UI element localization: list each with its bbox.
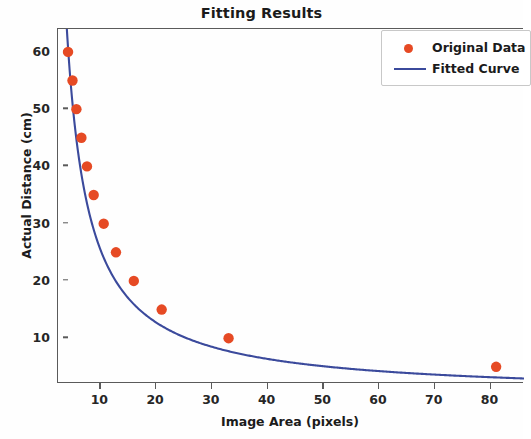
y-tick-label: 10 [16,330,50,345]
chart-legend: Original Data Fitted Curve [381,30,531,86]
data-point [99,218,109,228]
x-tick-mark [378,383,379,389]
data-point [129,276,139,286]
data-point [76,133,86,143]
legend-label: Fitted Curve [428,61,519,76]
x-tick-mark [99,383,100,389]
data-point [223,333,233,343]
line-marker-icon [392,62,428,76]
data-point [156,304,166,314]
data-point [491,362,501,372]
x-tick-label: 50 [302,392,342,407]
x-tick-label: 40 [247,392,287,407]
y-axis-title: Actual Distance (cm) [19,56,34,316]
chart-title: Fitting Results [0,5,523,21]
x-axis-title: Image Area (pixels) [57,414,523,429]
x-tick-label: 30 [191,392,231,407]
data-point [67,75,77,85]
x-tick-mark [434,383,435,389]
x-tick-mark [490,383,491,389]
data-point [63,47,73,57]
x-tick-mark [322,383,323,389]
data-point [88,190,98,200]
x-tick-label: 80 [470,392,510,407]
x-tick-label: 60 [358,392,398,407]
data-point [71,104,81,114]
x-tick-mark [267,383,268,389]
data-point-group [63,47,502,372]
x-tick-label: 10 [79,392,119,407]
legend-item-original-data[interactable]: Original Data [392,37,522,58]
scatter-marker-icon [392,41,428,55]
x-tick-label: 20 [135,392,175,407]
x-tick-mark [155,383,156,389]
data-point [82,161,92,171]
legend-item-fitted-curve[interactable]: Fitted Curve [392,58,522,79]
x-tick-mark [211,383,212,389]
x-tick-label: 70 [414,392,454,407]
legend-label: Original Data [428,40,526,55]
data-point [111,247,121,257]
